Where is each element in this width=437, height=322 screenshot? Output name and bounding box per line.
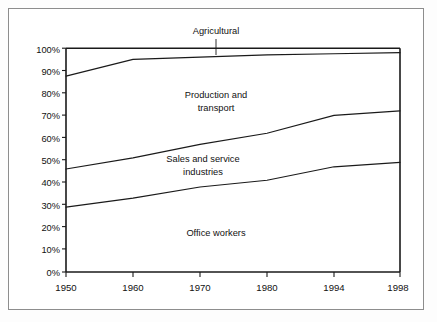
chart-figure: 100% 90% 80% 70% 60% 50% 40% 30% 20% 10%… — [0, 0, 437, 322]
chart-svg: 100% 90% 80% 70% 60% 50% 40% 30% 20% 10%… — [0, 0, 437, 322]
y-tick-label-10: 10% — [41, 245, 60, 255]
callout-agricultural-label: Agricultural — [193, 26, 240, 36]
y-tick-label-80: 80% — [41, 89, 60, 99]
y-tick-label-100: 100% — [36, 45, 60, 55]
y-tick-label-20: 20% — [41, 223, 60, 233]
y-tick-label-70: 70% — [41, 111, 60, 121]
callout-agricultural: Agricultural — [193, 26, 240, 55]
x-tick-label-1980: 1980 — [256, 282, 277, 293]
band-label-production-line2: transport — [198, 103, 235, 113]
band-label-office-workers: Office workers — [186, 228, 246, 238]
x-tick-label-1994: 1994 — [323, 282, 345, 293]
band-label-production-line1: Production and — [185, 90, 248, 100]
y-axis-labels: 100% 90% 80% 70% 60% 50% 40% 30% 20% 10%… — [36, 45, 60, 278]
boundary-line-0 — [66, 162, 400, 207]
band-label-sales-line2: industries — [183, 167, 223, 177]
y-axis — [62, 48, 66, 272]
y-tick-label-60: 60% — [41, 134, 60, 144]
y-tick-label-50: 50% — [41, 156, 60, 166]
x-tick-label-1998: 1998 — [387, 282, 408, 293]
band-label-production-and-transport: Production and transport — [185, 90, 248, 113]
x-tick-label-1970: 1970 — [189, 282, 210, 293]
y-tick-label-30: 30% — [41, 201, 60, 211]
band-label-sales-and-service: Sales and service industries — [166, 154, 239, 177]
x-tick-label-1950: 1950 — [55, 282, 76, 293]
boundary-line-2 — [66, 53, 400, 76]
x-tick-label-1960: 1960 — [122, 282, 143, 293]
x-axis — [66, 272, 400, 277]
band-label-sales-line1: Sales and service — [166, 154, 239, 164]
y-tick-label-0: 0% — [47, 268, 60, 278]
y-tick-label-90: 90% — [41, 67, 60, 77]
band-label-office-workers: Office workers — [186, 228, 246, 238]
x-axis-labels: 1950 1960 1970 1980 1994 1998 — [55, 282, 408, 293]
series-boundary-lines — [66, 53, 400, 207]
y-tick-label-40: 40% — [41, 178, 60, 188]
chart-canvas: 100% 90% 80% 70% 60% 50% 40% 30% 20% 10%… — [0, 0, 437, 322]
